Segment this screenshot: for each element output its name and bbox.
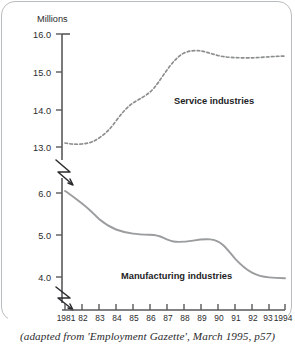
xtick-label-89: 89 (197, 313, 207, 323)
xtick-label-90: 90 (214, 313, 224, 323)
series-label-service-industries: Service industries (174, 96, 254, 106)
xtick-label-84: 84 (112, 313, 122, 323)
ytick-label-13: 13.0 (33, 143, 51, 153)
xtick-label-82: 82 (78, 313, 88, 323)
employment-line-chart: 16.0 15.0 14.0 13.0 6.0 5.0 4.0 Millions… (0, 0, 295, 353)
figure-caption: (adapted from 'Employment Gazette', Marc… (0, 330, 295, 342)
xtick-label-93: 93 (263, 313, 273, 323)
xtick-label-91: 91 (231, 313, 241, 323)
ytick-label-5: 5.0 (38, 231, 51, 241)
ytick-label-15: 15.0 (33, 68, 51, 78)
ytick-label-16: 16.0 (33, 30, 51, 40)
xtick-label-85: 85 (129, 313, 139, 323)
xtick-label-86: 86 (146, 313, 156, 323)
xtick-label-1981: 1981 (57, 313, 76, 323)
xtick-label-88: 88 (180, 313, 190, 323)
ytick-label-14: 14.0 (33, 106, 51, 116)
x-axis-ticks (65, 304, 285, 310)
ytick-label-4: 4.0 (38, 273, 51, 283)
axis-break-upper-icon (56, 160, 73, 185)
xtick-label-1994: 1994 (274, 313, 293, 323)
xtick-label-83: 83 (95, 313, 105, 323)
figure-root: 16.0 15.0 14.0 13.0 6.0 5.0 4.0 Millions… (0, 0, 295, 353)
series-line-manufacturing-industries (65, 191, 285, 278)
series-label-manufacturing-industries: Manufacturing industries (121, 271, 232, 281)
y-axis-unit-label: Millions (37, 14, 68, 24)
xtick-label-87: 87 (163, 313, 173, 323)
xtick-label-92: 92 (248, 313, 258, 323)
ytick-label-6: 6.0 (38, 189, 51, 199)
